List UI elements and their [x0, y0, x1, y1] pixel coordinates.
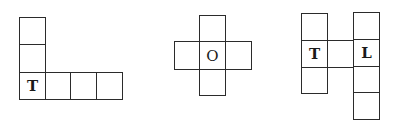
- net2-cell-left: [174, 41, 200, 70]
- face-label-O: O: [206, 47, 218, 65]
- face-label-L: L: [361, 44, 372, 62]
- net3-bridge-cell: [327, 40, 354, 68]
- net1-cell-middle: [19, 44, 46, 73]
- net3-right-cell-3: [353, 66, 380, 93]
- net1-cell-row-2: [45, 72, 71, 100]
- net3-right-cell-1: [353, 12, 380, 40]
- face-label-T: T: [27, 77, 38, 95]
- net2-cell-top: [199, 15, 226, 42]
- net1-cell-row-4: [96, 72, 123, 100]
- net1-cell-row-3: [70, 72, 97, 100]
- net1-cell-T: T: [19, 72, 46, 100]
- net2-cell-right: [225, 41, 252, 70]
- net3-right-cell-4: [353, 92, 380, 120]
- face-label-T: T: [309, 45, 320, 63]
- net1-cell-top: [19, 17, 46, 45]
- net3-left-cell-T: T: [301, 40, 328, 68]
- net2-cell-O: O: [199, 41, 226, 70]
- net2-cell-bottom: [199, 69, 226, 96]
- net3-left-cell-top: [301, 13, 328, 41]
- net3-right-cell-L: L: [353, 39, 380, 67]
- net3-left-cell-bottom: [301, 67, 328, 94]
- cube-nets-diagram: T O T L: [0, 0, 396, 133]
